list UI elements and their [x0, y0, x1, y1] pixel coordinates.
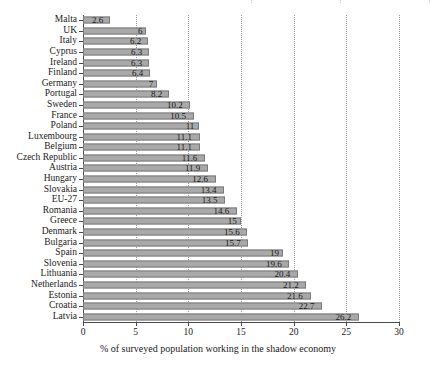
category-label-slovenia: Slovenia [44, 259, 77, 269]
category-label-finland: Finland [48, 68, 77, 78]
category-label-luxembourg: Luxembourg [28, 132, 77, 142]
category-label-netherlands: Netherlands [31, 280, 77, 290]
value-label-croatia: 22.7 [299, 302, 315, 311]
category-label-germany: Germany [42, 79, 77, 89]
category-label-latvia: Latvia [53, 312, 77, 322]
bar-row: UK6 [83, 26, 399, 37]
x-tick-5 [136, 322, 137, 326]
bar-lithuania [83, 271, 298, 278]
value-label-france: 10.5 [170, 111, 186, 120]
x-tick-10 [188, 322, 189, 326]
bar-row: Denmark15.6 [83, 227, 399, 238]
bar-bulgaria [83, 239, 248, 246]
bar-row: Spain19 [83, 248, 399, 259]
category-label-croatia: Croatia [49, 301, 77, 311]
bar-row: Czech Republic11.6 [83, 153, 399, 164]
x-tick-label-30: 30 [394, 327, 404, 337]
category-label-hungary: Hungary [44, 174, 77, 184]
value-label-eu-27: 13.5 [202, 196, 218, 205]
chart-figure: Malta2.6UK6Italy6.2Cyprus6.3Ireland6.3Fi… [0, 0, 436, 367]
bar-row: Cyprus6.3 [83, 47, 399, 58]
plot-area: Malta2.6UK6Italy6.2Cyprus6.3Ireland6.3Fi… [83, 15, 399, 322]
value-label-greece: 15 [228, 217, 237, 226]
category-label-belgium: Belgium [44, 143, 77, 153]
bar-estonia [83, 292, 311, 299]
bar-row: Lithuania20.4 [83, 269, 399, 280]
value-label-finland: 6.4 [132, 69, 143, 78]
bar-poland [83, 123, 199, 130]
value-label-austria: 11.9 [185, 164, 200, 173]
x-tick-label-5: 5 [133, 327, 138, 337]
bar-row: Finland6.4 [83, 68, 399, 79]
clipped-top-artifact [0, 0, 436, 4]
bar-croatia [83, 303, 322, 310]
x-tick-25 [346, 322, 347, 326]
x-tick-label-20: 20 [289, 327, 299, 337]
bar-row: Germany7 [83, 79, 399, 90]
value-label-slovakia: 13.4 [201, 185, 217, 194]
category-label-slovakia: Slovakia [44, 185, 77, 195]
category-label-austria: Austria [49, 164, 77, 174]
bar-row: Slovakia13.4 [83, 184, 399, 195]
x-tick-label-10: 10 [184, 327, 194, 337]
category-label-bulgaria: Bulgaria [44, 238, 77, 248]
category-label-france: France [51, 111, 77, 121]
value-label-bulgaria: 15.7 [225, 238, 241, 247]
bar-row: Sweden10.2 [83, 100, 399, 111]
value-label-uk: 6 [138, 26, 143, 35]
value-label-belgium: 11.1 [177, 143, 192, 152]
value-label-ireland: 6.3 [131, 58, 142, 67]
category-label-uk: UK [63, 26, 77, 36]
x-tick-label-0: 0 [81, 327, 86, 337]
bar-greece [83, 218, 241, 225]
x-tick-label-25: 25 [342, 327, 352, 337]
value-label-czech-republic: 11.6 [182, 153, 197, 162]
category-label-italy: Italy [60, 37, 77, 47]
x-tick-20 [294, 322, 295, 326]
bar-row: Ireland6.3 [83, 57, 399, 68]
category-label-romania: Romania [43, 206, 77, 216]
bar-row: Malta2.6 [83, 15, 399, 26]
bar-row: Bulgaria15.7 [83, 237, 399, 248]
value-label-hungary: 12.6 [192, 175, 208, 184]
bar-row: EU-2713.5 [83, 195, 399, 206]
category-label-malta: Malta [55, 16, 77, 26]
value-label-germany: 7 [149, 79, 154, 88]
category-label-spain: Spain [55, 248, 77, 258]
bar-spain [83, 250, 283, 257]
value-label-malta: 2.6 [92, 16, 103, 25]
value-label-cyprus: 6.3 [131, 48, 142, 57]
x-tick-label-15: 15 [236, 327, 246, 337]
bar-row: Portugal8.2 [83, 89, 399, 100]
bar-row: Slovenia19.6 [83, 258, 399, 269]
value-label-sweden: 10.2 [167, 100, 183, 109]
category-label-denmark: Denmark [42, 227, 77, 237]
category-label-lithuania: Lithuania [41, 270, 77, 280]
bar-row: Italy6.2 [83, 36, 399, 47]
value-label-spain: 19 [270, 249, 279, 258]
bar-row: Austria11.9 [83, 163, 399, 174]
bar-row: Netherlands21.2 [83, 280, 399, 291]
value-label-estonia: 21.6 [287, 291, 303, 300]
category-label-poland: Poland [51, 121, 77, 131]
bar-latvia [83, 313, 359, 320]
bar-row: Poland11 [83, 121, 399, 132]
bar-row: Greece15 [83, 216, 399, 227]
bar-row: Latvia26.2 [83, 311, 399, 322]
bar-row: France10.5 [83, 110, 399, 121]
bar-row: Luxembourg11.1 [83, 131, 399, 142]
category-label-czech-republic: Czech Republic [17, 153, 77, 163]
bar-uk [83, 27, 146, 34]
category-label-sweden: Sweden [47, 100, 77, 110]
category-label-cyprus: Cyprus [50, 47, 77, 57]
x-axis-title: % of surveyed population working in the … [0, 343, 436, 354]
bar-germany [83, 80, 157, 87]
value-label-romania: 14.6 [213, 206, 229, 215]
value-label-luxembourg: 11.1 [177, 132, 192, 141]
bar-row: Romania14.6 [83, 206, 399, 217]
bar-row: Belgium11.1 [83, 142, 399, 153]
value-label-latvia: 26.2 [336, 312, 352, 321]
value-label-portugal: 8.2 [151, 90, 162, 99]
value-label-slovenia: 19.6 [266, 259, 282, 268]
bar-row: Hungary12.6 [83, 174, 399, 185]
